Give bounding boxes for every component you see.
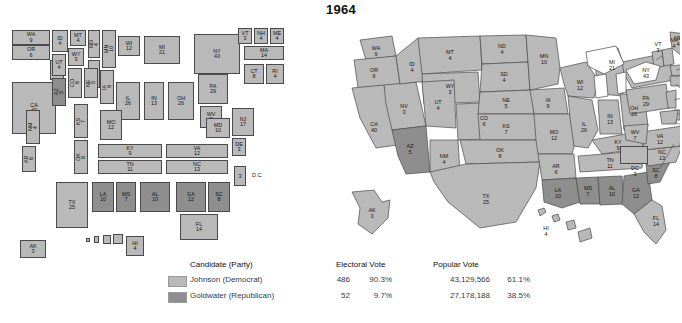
cartogram-state-vt[interactable]: VT3	[238, 28, 252, 44]
svg-text:21: 21	[609, 65, 615, 71]
state-votes: 6	[75, 79, 81, 87]
cartogram-state-mn[interactable]: MN10	[102, 30, 116, 68]
cartogram-state-ut[interactable]: UT4	[52, 54, 66, 76]
cartogram-state-tn[interactable]: TN11	[98, 160, 162, 174]
cartogram-dc-label: D.C.	[252, 172, 263, 178]
svg-text:4: 4	[449, 55, 452, 61]
geomap-shape-ct[interactable]	[670, 76, 680, 86]
state-votes: 3	[242, 36, 249, 42]
geomap-state-label-hi: HI4	[543, 225, 548, 237]
state-votes: 4	[57, 41, 62, 47]
cartogram-state-ga[interactable]: GA12	[176, 182, 206, 212]
geomap-shape-hi[interactable]	[538, 208, 546, 216]
scale-marker-1	[86, 238, 90, 242]
cartogram-state-pa[interactable]: PA29	[198, 74, 228, 104]
cartogram-state-wy[interactable]: WY3	[68, 48, 84, 66]
cartogram-state-ne[interactable]: NE5	[84, 68, 98, 98]
cartogram-state-az[interactable]: AZ5	[52, 78, 66, 106]
geomap-state-label-pa: PA29	[643, 95, 650, 107]
geomap-shape-ma[interactable]	[670, 64, 680, 76]
cartogram-state-in[interactable]: IN13	[144, 82, 164, 120]
state-votes: 26	[177, 101, 185, 107]
svg-text:14: 14	[653, 221, 659, 227]
legend-candidate-johnson: Johnson (Democrat)	[190, 275, 262, 284]
cartogram-state-id[interactable]: ID4	[52, 30, 68, 52]
cartogram-state-mi[interactable]: MI21	[144, 36, 180, 64]
state-votes: 12	[187, 197, 195, 203]
state-votes: 4	[74, 38, 82, 44]
svg-text:3: 3	[371, 213, 374, 219]
svg-text:8: 8	[655, 173, 658, 179]
cartogram-state-wi[interactable]: WI12	[118, 36, 140, 56]
state-votes: 3	[29, 249, 36, 255]
cartogram-state-sc[interactable]: SC8	[208, 182, 230, 212]
scale-marker-3	[103, 235, 111, 244]
svg-text:5: 5	[505, 103, 508, 109]
svg-text:7: 7	[505, 129, 508, 135]
cartogram-state-al[interactable]: AL10	[140, 182, 170, 212]
svg-text:7: 7	[634, 135, 637, 141]
cartogram-state-nm[interactable]: NM4	[26, 110, 40, 144]
svg-text:10: 10	[609, 191, 615, 197]
geomap-shape-nj[interactable]	[666, 90, 676, 108]
state-votes: 10	[109, 45, 115, 53]
results-legend: Candidate (Party) Electoral Vote Popular…	[168, 260, 668, 318]
legend-popular-votes-johnson: 43,129,566	[426, 275, 490, 284]
cartogram-state-nc[interactable]: NC13	[166, 160, 228, 174]
cartogram-state-va[interactable]: VA12	[166, 144, 228, 158]
geomap-state-label-ny: NY43	[642, 67, 650, 79]
cartogram-state-ct[interactable]: CT8	[244, 64, 264, 84]
state-votes: 26	[125, 101, 131, 107]
cartogram-state-tx[interactable]: TX25	[56, 182, 88, 228]
svg-text:11: 11	[607, 163, 613, 169]
state-votes: 4	[94, 40, 100, 48]
cartogram-state-ky[interactable]: KY9	[98, 144, 162, 158]
cartogram-state-nd[interactable]: ND4	[88, 30, 100, 58]
geomap-shape-nh[interactable]	[662, 48, 674, 66]
cartogram-state-ny[interactable]: NY43	[194, 34, 240, 74]
cartogram-dc-box[interactable]: 3	[234, 166, 246, 186]
cartogram-state-ma[interactable]: MA14	[244, 46, 284, 60]
cartogram-state-ms[interactable]: MS7	[116, 182, 136, 212]
svg-text:13: 13	[607, 119, 613, 125]
cartogram-state-wa[interactable]: WA9	[12, 30, 50, 45]
cartogram-state-ar[interactable]: AR6	[22, 146, 36, 172]
state-votes: 8	[250, 74, 257, 80]
geomap-island-shape	[566, 220, 576, 230]
state-votes: 43	[213, 54, 221, 60]
cartogram-state-me[interactable]: ME4	[270, 28, 284, 44]
cartogram-state-mt[interactable]: MT4	[70, 30, 86, 46]
state-votes: 29	[210, 89, 217, 95]
cartogram-state-la[interactable]: LA10	[92, 182, 114, 212]
state-votes: 21	[159, 50, 165, 56]
cartogram-state-or[interactable]: OR6	[12, 45, 50, 60]
cartogram-state-nh[interactable]: NH4	[254, 28, 268, 44]
cartogram-state-ak[interactable]: AK3	[20, 240, 46, 258]
state-votes: 4	[132, 246, 137, 252]
cartogram-state-ia[interactable]: IA9	[100, 70, 114, 104]
geomap-shape-nd[interactable]	[480, 35, 528, 64]
legend-electoral-pct-goldwater: 9.7%	[358, 291, 392, 300]
cartogram-state-md[interactable]: MD10	[206, 118, 230, 138]
cartogram-state-oh[interactable]: OH26	[168, 82, 194, 120]
state-votes: 13	[193, 167, 201, 173]
svg-text:4: 4	[411, 67, 414, 73]
cartogram-state-mo[interactable]: MO12	[100, 110, 122, 140]
cartogram-state-ks[interactable]: KS7	[74, 104, 88, 138]
geomap-dc-box	[620, 146, 648, 164]
svg-text:9: 9	[375, 51, 378, 57]
scale-marker-2	[94, 236, 99, 243]
cartogram-state-fl[interactable]: FL14	[180, 214, 218, 240]
state-votes: 8	[215, 197, 223, 203]
cartogram-state-ok[interactable]: OK8	[74, 140, 88, 174]
cartogram-state-hi[interactable]: HI4	[126, 236, 144, 256]
geomap-shape-la[interactable]	[542, 178, 580, 208]
state-votes: 12	[194, 151, 201, 157]
legend-swatch-johnson	[168, 276, 187, 287]
cartogram-state-ri[interactable]: RI4	[266, 64, 284, 84]
cartogram-state-nj[interactable]: NJ17	[232, 108, 254, 136]
cartogram-state-co[interactable]: CO6	[68, 68, 82, 98]
svg-text:6: 6	[555, 169, 558, 175]
state-votes: 12	[126, 46, 133, 52]
cartogram-state-de[interactable]: DE3	[232, 138, 246, 156]
